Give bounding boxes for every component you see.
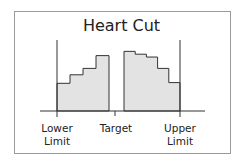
right-distribution <box>124 51 180 111</box>
left-step-area <box>57 56 109 111</box>
upper-limit-label: UpperLimit <box>157 122 203 148</box>
target-label: Target <box>93 122 139 135</box>
left-distribution <box>57 56 109 111</box>
right-step-area <box>124 51 180 111</box>
lower-limit-label: LowerLimit <box>34 122 80 148</box>
